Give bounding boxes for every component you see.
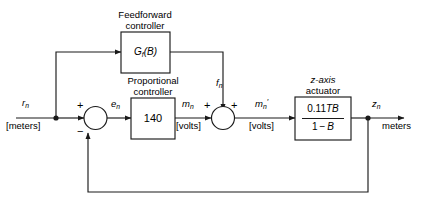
label-controller-output-unit: [volts] — [176, 121, 201, 132]
actuator-denominator-right: B — [327, 121, 334, 132]
label-reference-unit: [meters] — [6, 121, 40, 132]
actuator-numerator-vars: TB — [326, 103, 339, 114]
label-feedforward-signal-symbol: fn — [216, 78, 222, 89]
ff-argument: (B) — [144, 46, 157, 57]
label-actuator-input-unit: [volts] — [249, 121, 274, 132]
error-subscript: n — [116, 103, 120, 110]
sign-feedforward-summer-right: + — [231, 99, 237, 111]
reference-subscript: n — [25, 102, 29, 109]
output-subscript: n — [377, 103, 381, 110]
ff-symbol: G — [134, 46, 142, 57]
caption-feedforward-controller: Feedforward controller — [118, 10, 171, 31]
diagram-wiring — [0, 0, 423, 208]
sign-feedforward-summer-left: + — [204, 99, 210, 111]
label-actuator-input-symbol: mn′ — [255, 99, 268, 110]
caption-proportional-line2: controller — [127, 87, 178, 98]
caption-z-axis-actuator: z-axis actuator — [306, 75, 340, 96]
sign-error-summer-positive: + — [77, 99, 83, 111]
controller-output-symbol: m — [182, 98, 190, 109]
actuator-axis-letter: z-axis — [311, 74, 336, 85]
controller-output-subscript: n — [190, 103, 194, 110]
label-actuator-numerator: 0.11TB — [307, 103, 339, 114]
caption-actuator-line2: actuator — [306, 86, 340, 97]
block-diagram-canvas: Feedforward controller Gf(B) Proportiona… — [0, 0, 423, 208]
label-proportional-gain: 140 — [144, 112, 162, 124]
actuator-denominator-left: 1 — [312, 121, 318, 132]
label-reference-symbol: rn — [22, 98, 29, 109]
summing-junction-error — [84, 107, 107, 130]
feedforward-signal-subscript: n — [219, 82, 223, 89]
actuator-input-symbol: m — [255, 98, 263, 109]
label-output-unit: meters — [382, 121, 411, 132]
label-error-symbol: en — [111, 99, 120, 110]
label-output-symbol: zn — [372, 99, 381, 110]
actuator-numerator-value: 0.11 — [307, 103, 326, 114]
sign-error-summer-negative: − — [77, 125, 83, 137]
label-actuator-denominator: 1−B — [312, 121, 334, 132]
actuator-denominator-op: − — [320, 121, 326, 132]
caption-proportional-controller: Proportional controller — [127, 76, 178, 97]
caption-feedforward-line2: controller — [118, 21, 171, 32]
label-feedforward-transfer-function: Gf(B) — [134, 46, 157, 57]
label-controller-output-symbol: mn — [182, 99, 194, 110]
ff-subscript: f — [142, 51, 144, 58]
actuator-input-prime: ′ — [267, 97, 269, 106]
